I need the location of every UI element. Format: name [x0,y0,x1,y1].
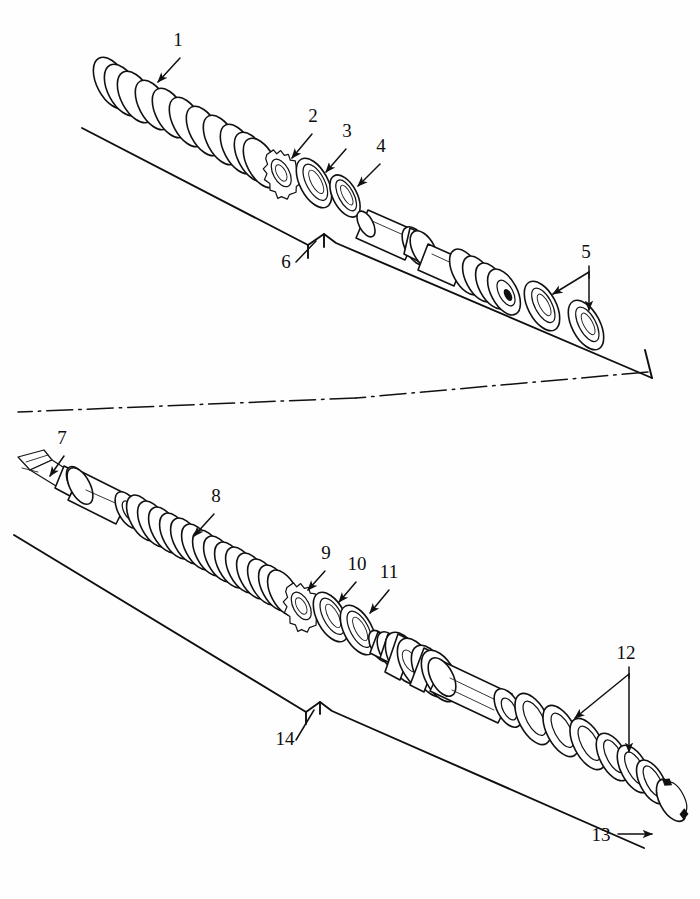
diagram-sheet: 1 2 3 4 5 6 7 8 9 10 11 12 13 14 [0,0,700,899]
callout-4: 4 [376,135,386,156]
callout-7: 7 [57,427,67,448]
callout-10: 10 [348,553,367,574]
callout-3: 3 [342,120,352,141]
callout-2: 2 [308,105,318,126]
exploded-parts-diagram: 1 2 3 4 5 6 7 8 9 10 11 12 13 14 [0,0,700,899]
callout-5: 5 [581,241,591,262]
callout-14: 14 [276,728,296,749]
callout-9: 9 [321,542,331,563]
callout-6: 6 [281,251,291,272]
callout-13: 13 [592,824,611,845]
callout-12: 12 [617,642,636,663]
callout-1: 1 [173,29,183,50]
callout-8: 8 [211,485,221,506]
callout-11: 11 [380,561,398,582]
